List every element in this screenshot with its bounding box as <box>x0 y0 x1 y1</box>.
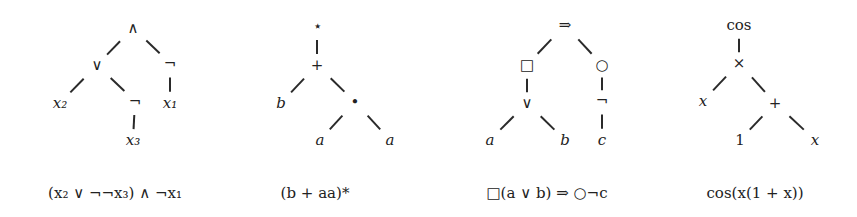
formula-caption: □(a ∨ b) ⇒ ○¬c <box>486 184 607 202</box>
tree-node: □ <box>520 58 534 73</box>
tree-edge <box>750 116 763 129</box>
tree-node: + <box>769 96 782 111</box>
tree-node: 1 <box>735 133 745 148</box>
tree-node: a <box>486 133 495 148</box>
tree-node: a <box>316 133 325 148</box>
tree-node: ⋆ <box>313 19 322 34</box>
formula-caption: (b + aa)* <box>281 184 350 202</box>
tree-edge <box>291 79 304 93</box>
tree-node: + <box>311 58 324 73</box>
tree-node: ⇒ <box>559 18 572 33</box>
tree-edge <box>70 79 83 93</box>
tree-edge <box>789 116 803 129</box>
tree-edge <box>713 77 726 91</box>
tree-edge <box>146 41 159 54</box>
tree-edge <box>331 78 345 91</box>
tree-edge <box>134 115 135 129</box>
tree-node: x₂ <box>53 96 67 111</box>
tree-edge <box>107 41 120 54</box>
tree-node: ¬ <box>596 93 609 108</box>
tree-node: • <box>351 95 360 110</box>
tree-node: × <box>733 56 746 71</box>
tree-node: c <box>598 133 606 148</box>
tree-node: a <box>386 133 395 148</box>
tree-edge <box>538 39 552 53</box>
tree-node: ¬ <box>164 56 177 71</box>
tree-edge <box>541 116 555 129</box>
tree-node: ∧ <box>128 21 139 36</box>
tree-edge <box>111 78 125 91</box>
tree-node: x <box>811 133 819 148</box>
tree-node: ¬ <box>129 94 142 109</box>
tree-node: cos <box>726 18 751 33</box>
tree-node: ∨ <box>522 96 533 111</box>
syntax-trees-figure: ∧∨¬x₂¬x₁x₃(x₂ ∨ ¬¬x₃) ∧ ¬x₁⋆+b•aa(b + aa… <box>0 0 857 217</box>
tree-node: x₃ <box>126 133 140 148</box>
tree-node: b <box>560 133 570 148</box>
tree-node: x <box>699 94 707 109</box>
tree-node: x₁ <box>163 96 177 111</box>
tree-edge <box>368 116 381 130</box>
tree-edge <box>330 116 343 130</box>
tree-node: b <box>276 96 286 111</box>
formula-caption: cos(x(1 + x)) <box>706 184 803 202</box>
tree-node: ○ <box>595 58 608 73</box>
tree-node: ∨ <box>92 58 103 73</box>
tree-edge <box>578 39 591 53</box>
formula-caption: (x₂ ∨ ¬¬x₃) ∧ ¬x₁ <box>48 184 182 202</box>
tree-edge <box>752 77 765 91</box>
tree-edge <box>500 116 513 129</box>
